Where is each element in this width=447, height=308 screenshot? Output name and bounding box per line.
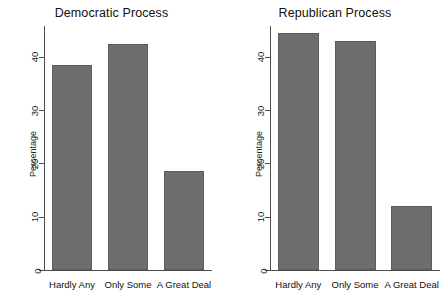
- x-axis-line: [270, 270, 440, 271]
- page-title: Republican Process: [223, 6, 447, 20]
- y-tick-label: 40: [255, 52, 266, 63]
- x-tick-label: A Great Deal: [157, 279, 211, 290]
- y-axis-label: Percentage: [28, 131, 38, 177]
- plot-area: 010203040 Hardly AnyOnly SomeA Great Dea…: [270, 26, 440, 271]
- plot-area: 010203040 Hardly AnyOnly SomeA Great Dea…: [44, 26, 212, 271]
- y-tick-label: 10: [29, 212, 40, 223]
- bar-series: Hardly AnyOnly SomeA Great Deal: [44, 25, 212, 270]
- x-axis-line: [44, 270, 212, 271]
- figure-two-panel-bar-charts: Democratic Process Percentage 010203040 …: [0, 0, 447, 308]
- y-tick-label: 20: [29, 159, 40, 170]
- panel-republican-process: Republican Process Percentage 010203040 …: [223, 0, 447, 308]
- bar: [164, 171, 204, 270]
- x-tick-label: Hardly Any: [49, 279, 95, 290]
- y-tick-label: 0: [258, 268, 269, 273]
- y-tick-label: 0: [32, 268, 43, 273]
- x-tick-label: Only Some: [105, 279, 152, 290]
- y-tick: 0: [44, 270, 45, 271]
- y-tick: 0: [270, 270, 271, 271]
- page-title: Democratic Process: [0, 6, 223, 20]
- bar-series: Hardly AnyOnly SomeA Great Deal: [270, 25, 440, 270]
- x-tick-label: Hardly Any: [275, 279, 321, 290]
- x-tick-label: Only Some: [332, 279, 379, 290]
- bar: [52, 65, 92, 270]
- bar: [108, 44, 148, 270]
- bar: [391, 206, 432, 270]
- y-tick-label: 10: [255, 212, 266, 223]
- y-tick-label: 30: [255, 105, 266, 116]
- y-axis-label: Percentage: [254, 131, 264, 177]
- bar: [278, 33, 319, 270]
- x-tick-label: A Great Deal: [384, 279, 438, 290]
- y-tick-label: 20: [255, 159, 266, 170]
- y-tick-label: 40: [29, 52, 40, 63]
- bar: [335, 41, 376, 270]
- panel-democratic-process: Democratic Process Percentage 010203040 …: [0, 0, 223, 308]
- y-tick-label: 30: [29, 105, 40, 116]
